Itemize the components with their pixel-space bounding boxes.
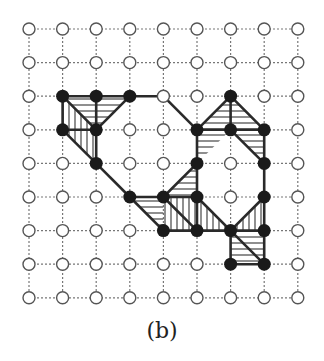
open-node [292, 124, 304, 136]
open-node [90, 225, 102, 237]
open-node [90, 57, 102, 69]
open-node [157, 157, 169, 169]
open-node [124, 124, 136, 136]
open-node [23, 124, 35, 136]
open-node [124, 157, 136, 169]
open-node [157, 258, 169, 270]
filled-node [123, 191, 136, 204]
open-node [157, 57, 169, 69]
open-node [191, 258, 203, 270]
open-node [23, 90, 35, 102]
open-node [124, 225, 136, 237]
open-node [258, 292, 270, 304]
filled-node [258, 191, 271, 204]
open-node [258, 90, 270, 102]
filled-node [157, 191, 170, 204]
filled-node [56, 90, 69, 103]
hatched-region [197, 130, 231, 164]
open-node [23, 57, 35, 69]
open-node [23, 258, 35, 270]
filled-node [90, 90, 103, 103]
open-node [124, 292, 136, 304]
filled-node [258, 157, 271, 170]
open-node [57, 258, 69, 270]
filled-node [191, 123, 204, 136]
filled-node [224, 90, 237, 103]
filled-node [191, 224, 204, 237]
open-node [90, 191, 102, 203]
open-node [225, 191, 237, 203]
lattice-diagram [0, 0, 324, 315]
bold-edge [163, 96, 197, 130]
open-node [23, 23, 35, 35]
filled-node [224, 224, 237, 237]
filled-node [56, 123, 69, 136]
filled-node [224, 123, 237, 136]
open-node [292, 258, 304, 270]
open-node [191, 57, 203, 69]
filled-node [258, 258, 271, 271]
open-node [292, 225, 304, 237]
open-node [57, 191, 69, 203]
open-node [157, 124, 169, 136]
open-node [191, 292, 203, 304]
open-node [191, 23, 203, 35]
open-node [57, 23, 69, 35]
open-node [90, 258, 102, 270]
open-node [124, 57, 136, 69]
filled-node [191, 157, 204, 170]
open-node [124, 23, 136, 35]
open-node [258, 23, 270, 35]
open-node [23, 157, 35, 169]
open-node [157, 292, 169, 304]
open-node [57, 225, 69, 237]
open-node [124, 258, 136, 270]
open-node [23, 292, 35, 304]
open-node [90, 292, 102, 304]
open-node [292, 191, 304, 203]
open-node [292, 292, 304, 304]
open-node [225, 23, 237, 35]
filled-node [123, 90, 136, 103]
open-node [90, 23, 102, 35]
open-node [191, 90, 203, 102]
open-node [57, 157, 69, 169]
open-node [292, 57, 304, 69]
open-node [225, 292, 237, 304]
open-node [157, 23, 169, 35]
open-node [225, 157, 237, 169]
bold-edge [96, 163, 130, 197]
open-node [157, 90, 169, 102]
open-node [258, 57, 270, 69]
open-node [292, 23, 304, 35]
filled-node [191, 191, 204, 204]
filled-node [258, 224, 271, 237]
filled-node [224, 258, 237, 271]
filled-node [90, 123, 103, 136]
open-node [292, 157, 304, 169]
open-node [292, 90, 304, 102]
filled-node [157, 224, 170, 237]
figure-caption: (b) [0, 318, 324, 343]
filled-node [258, 123, 271, 136]
open-node [23, 191, 35, 203]
filled-node [90, 157, 103, 170]
open-node [23, 225, 35, 237]
open-node [57, 292, 69, 304]
open-node [225, 57, 237, 69]
lattice-nodes [23, 23, 304, 304]
open-node [57, 57, 69, 69]
